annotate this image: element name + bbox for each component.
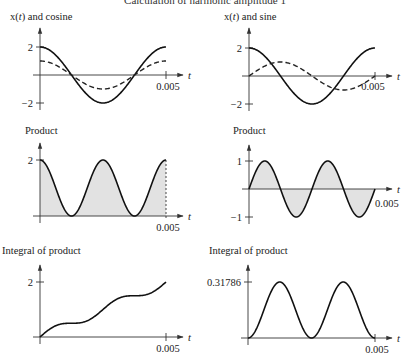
solid-curve xyxy=(248,282,375,338)
x-axis-label: t xyxy=(397,184,401,195)
figure: Calculation of harmonic amplitude 1 x(t)… xyxy=(0,0,410,364)
y-tick-label: −2 xyxy=(231,99,242,110)
panel-title: Integral of product xyxy=(209,245,288,256)
y-tick-label: 2 xyxy=(237,43,242,54)
x-tick-label: 0.005 xyxy=(365,344,389,355)
x-tick-label: 0.005 xyxy=(375,198,399,209)
figure-title: Calculation of harmonic amplitude 1 xyxy=(124,0,286,6)
y-tick-label: 2 xyxy=(28,42,33,53)
panel-title: x(t) and cosine xyxy=(10,11,73,23)
x-axis-label: t xyxy=(188,70,192,81)
panel-x-and-cosine: x(t) and cosinet2−20.005 xyxy=(10,11,192,110)
area-fill xyxy=(40,160,166,216)
panel-title: x(t) and sine xyxy=(224,11,277,23)
panel-integral-sine: Integral of productt0.317860.005 xyxy=(207,245,401,355)
panel-x-and-sine: x(t) and sinet2−20.005 xyxy=(224,11,401,111)
x-axis-label: t xyxy=(188,332,192,343)
y-tick-label: 0.31786 xyxy=(207,277,241,288)
x-tick-label: 0.005 xyxy=(361,81,385,92)
x-tick-label: 0.005 xyxy=(156,222,180,233)
solid-curve xyxy=(40,282,166,337)
x-tick-label: 0.005 xyxy=(156,343,180,354)
panel-product-cosine: Productt20.005 xyxy=(25,125,192,233)
panel-integral-cosine: Integral of productt20.005 xyxy=(2,245,192,354)
panel-title: Product xyxy=(25,125,58,136)
x-axis-label: t xyxy=(397,71,401,82)
y-tick-label: 2 xyxy=(28,277,33,288)
y-tick-label: 2 xyxy=(28,155,33,166)
x-axis-label: t xyxy=(188,211,192,222)
y-tick-label: 1 xyxy=(237,156,242,167)
y-tick-label: −2 xyxy=(22,98,33,109)
x-tick-label: 0.005 xyxy=(156,81,180,92)
y-tick-label: −1 xyxy=(231,212,242,223)
panel-product-sine: Productt1−10.005 xyxy=(231,125,401,224)
x-axis-label: t xyxy=(397,333,401,344)
panel-title: Product xyxy=(233,125,266,136)
panel-title: Integral of product xyxy=(2,245,81,256)
